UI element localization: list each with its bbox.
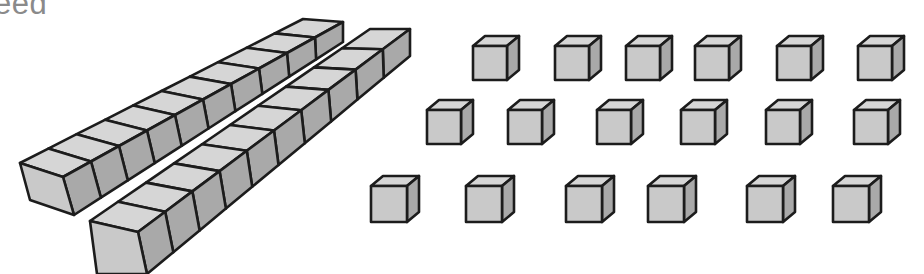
- base-ten-blocks-illustration: [0, 0, 924, 274]
- unit-cube: [566, 176, 614, 222]
- unit-cube: [858, 36, 904, 80]
- cube-side-face: [869, 176, 881, 222]
- cube-side-face: [602, 176, 614, 222]
- cube-front-face: [854, 110, 888, 144]
- cube-side-face: [684, 176, 696, 222]
- cube-front-face: [833, 186, 869, 222]
- cube-side-face: [407, 176, 419, 222]
- unit-cube: [473, 36, 519, 80]
- cube-front-face: [566, 186, 602, 222]
- cube-front-face: [747, 186, 783, 222]
- unit-cube: [766, 100, 812, 144]
- cube-side-face: [783, 176, 795, 222]
- cube-front-face: [858, 46, 892, 80]
- unit-cube: [626, 36, 672, 80]
- unit-cube: [648, 176, 696, 222]
- cube-front-face: [626, 46, 660, 80]
- ten-rods-group: [20, 19, 410, 274]
- unit-cube: [695, 36, 741, 80]
- cube-front-face: [681, 110, 715, 144]
- cube-front-face: [555, 46, 589, 80]
- cube-front-face: [766, 110, 800, 144]
- unit-cubes-group: [371, 36, 904, 222]
- unit-cube: [833, 176, 881, 222]
- cube-front-face: [695, 46, 729, 80]
- unit-cube: [777, 36, 823, 80]
- cube-front-face: [597, 110, 631, 144]
- cube-front-face: [371, 186, 407, 222]
- unit-cube: [747, 176, 795, 222]
- cube-front-face: [473, 46, 507, 80]
- unit-cube: [681, 100, 727, 144]
- cube-side-face: [502, 176, 514, 222]
- unit-cube: [466, 176, 514, 222]
- cube-front-face: [648, 186, 684, 222]
- cube-front-face: [466, 186, 502, 222]
- unit-cube: [427, 100, 473, 144]
- unit-cube: [508, 100, 554, 144]
- cube-front-face: [777, 46, 811, 80]
- unit-cube: [597, 100, 643, 144]
- unit-cube: [854, 100, 900, 144]
- unit-cube: [371, 176, 419, 222]
- cube-front-face: [508, 110, 542, 144]
- cube-front-face: [427, 110, 461, 144]
- unit-cube: [555, 36, 601, 80]
